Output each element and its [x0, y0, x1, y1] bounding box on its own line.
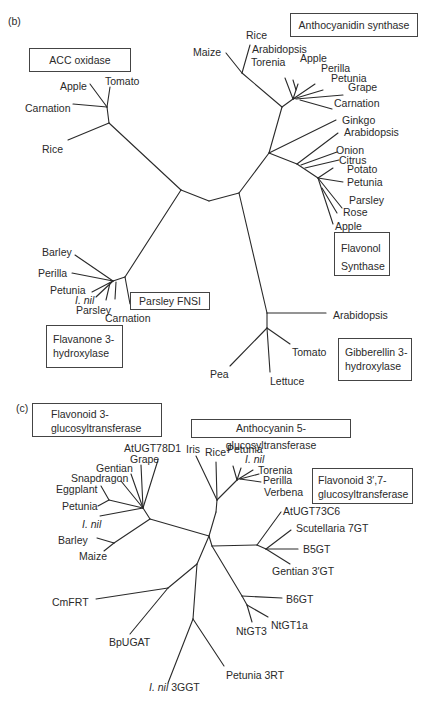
leaf-label: Arabidopsis: [333, 309, 388, 321]
leaf-label: NtGT1a: [271, 619, 308, 631]
leaf-label: Gentian 3′GT: [272, 565, 334, 577]
leaf-label: Verbena: [264, 486, 303, 498]
leaf-label: Maize: [193, 46, 221, 58]
leaf-label: B6GT: [286, 593, 313, 605]
leaf-label: Perilla: [263, 474, 292, 486]
group-box-flavonoid-3-glucosyltransferase: Flavonoid 3- glucosyltransferase: [32, 403, 162, 437]
leaf-label: Iris: [186, 443, 200, 455]
leaf-label: Pea: [210, 368, 229, 380]
leaf-label: Barley: [58, 534, 88, 546]
leaf-label: BpUGAT: [109, 636, 150, 648]
group-label-parsley-fnsi: Parsley FNSI: [139, 295, 201, 307]
leaf-label: Rice: [246, 29, 267, 41]
group-box-flavonoid-37-glucosyltransferase: Flavonoid 3′,7- glucosyltransferase: [312, 468, 413, 504]
group-label-f37gt-line1: Flavonoid 3′,7-: [318, 473, 412, 487]
group-box-gibberellin-3-hydroxylase: Gibberellin 3- hydroxylase: [338, 338, 412, 381]
leaf-label: Maize: [79, 550, 107, 562]
group-label-f3gt-line2: glucosyltransferase: [51, 421, 161, 435]
group-label-gibberellin-line2: hydroxylase: [345, 359, 411, 373]
leaf-label-inil-3ggt: I. nil 3GGT: [149, 681, 200, 693]
leaf-label: Lettuce: [270, 375, 304, 387]
leaf-label: Torenia: [251, 56, 285, 68]
group-label-f37gt-line2: glucosyltransferase: [318, 487, 412, 501]
leaf-label: Parsley: [349, 194, 384, 206]
leaf-label: Grape: [130, 453, 159, 465]
group-box-flavanone-3-hydroxylase: Flavanone 3- hydroxylase: [46, 325, 123, 368]
group-box-acc-oxidase: ACC oxidase: [29, 48, 131, 72]
leaf-label: Potato: [347, 163, 377, 175]
group-label-flavanone-line1: Flavanone 3-: [53, 332, 122, 346]
leaf-label: AtUGT73C6: [283, 505, 340, 517]
leaf-label: Grape: [348, 81, 377, 93]
group-box-anthocyanin-5-glucosyltransferase: Anthocyanin 5-glucosyltransferase: [191, 419, 351, 438]
leaf-label: Barley: [42, 246, 72, 258]
panel-c-label: (c): [16, 402, 28, 414]
leaf-label: Rice: [205, 446, 226, 458]
leaf-label: Petunia: [62, 500, 98, 512]
leaf-label: Tomato: [292, 346, 326, 358]
leaf-label: Ginkgo: [342, 114, 375, 126]
leaf-label: Perilla: [38, 267, 67, 279]
group-label-anthocyanidin-synthase: Anthocyanidin synthase: [299, 19, 410, 31]
group-label-flavonol-synthase-line2: Synthase: [341, 257, 389, 275]
leaf-label: CmFRT: [52, 596, 89, 608]
leaf-label: B5GT: [303, 543, 330, 555]
leaf-label: Petunia 3RT: [226, 669, 284, 681]
leaf-label: Arabidopsis: [344, 126, 399, 138]
group-box-parsley-fnsi: Parsley FNSI: [130, 292, 210, 310]
panel-b-label: (b): [8, 15, 21, 27]
group-label-f3gt-line1: Flavonoid 3-: [51, 407, 161, 421]
leaf-label: Carnation: [25, 102, 71, 114]
leaf-label-3ggt: 3GGT: [168, 681, 200, 693]
group-box-flavonol-synthase: Flavonol Synthase: [334, 232, 390, 276]
leaf-label: Rice: [42, 143, 63, 155]
leaf-label-inil-italic: I. nil: [149, 681, 168, 693]
group-label-flavanone-line2: hydroxylase: [53, 346, 122, 360]
group-label-acc-oxidase: ACC oxidase: [49, 54, 110, 66]
leaf-label: Arabidopsis: [252, 43, 307, 55]
leaf-label: Apple: [335, 220, 362, 232]
leaf-label: Scutellaria 7GT: [296, 522, 368, 534]
leaf-label: NtGT3: [236, 625, 267, 637]
group-label-flavonol-synthase-line1: Flavonol: [341, 239, 389, 257]
leaf-label: Carnation: [334, 97, 380, 109]
leaf-label: Rose: [343, 206, 368, 218]
leaf-label: Carnation: [105, 312, 151, 324]
leaf-label: Apple: [60, 80, 87, 92]
group-label-gibberellin-line1: Gibberellin 3-: [345, 345, 411, 359]
group-box-anthocyanidin-synthase: Anthocyanidin synthase: [290, 13, 418, 37]
leaf-label: Petunia: [347, 176, 383, 188]
leaf-label: Tomato: [105, 75, 139, 87]
leaf-label: I. nil: [82, 518, 101, 530]
leaf-label: Eggplant: [56, 483, 97, 495]
